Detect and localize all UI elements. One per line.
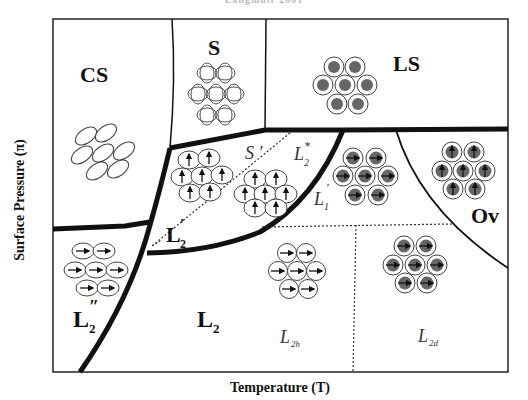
l2d-molecule-cluster xyxy=(383,236,447,293)
svg-text:′: ′ xyxy=(180,216,185,233)
ov-molecule-cluster xyxy=(432,142,495,199)
svg-text:L: L xyxy=(279,327,290,347)
phase-label-l2-double-prime: L 2 ″ xyxy=(73,297,99,336)
s-ls-boundary xyxy=(265,19,266,131)
svg-text:2: 2 xyxy=(213,321,220,336)
svg-text:2h: 2h xyxy=(291,339,301,349)
cs-molecule-cluster xyxy=(68,120,138,183)
l2-prime-left-boundary xyxy=(80,148,170,372)
svg-text:2: 2 xyxy=(89,321,96,336)
svg-text:2: 2 xyxy=(304,157,309,168)
phase-label-l2-star: L 2 * xyxy=(293,139,310,168)
svg-text:L: L xyxy=(417,326,428,346)
l2h-molecule-cluster xyxy=(269,244,326,299)
l2-double-prime-molecule-cluster xyxy=(64,243,128,296)
svg-text:L: L xyxy=(293,144,304,164)
svg-text:′: ′ xyxy=(326,181,329,195)
phase-label-cs: CS xyxy=(80,62,108,87)
svg-text:L: L xyxy=(166,222,181,247)
phase-label-s-prime: S ′ xyxy=(245,143,264,163)
cs-s-boundary xyxy=(170,19,174,148)
svg-text:1: 1 xyxy=(324,201,329,212)
svg-text:L: L xyxy=(197,306,213,332)
x-axis-label: Temperature (T) xyxy=(230,380,330,396)
cs-l2pp-boundary xyxy=(53,222,150,229)
svg-text:*: * xyxy=(304,139,310,153)
phase-label-l2-prime: L 2 ′ xyxy=(166,216,186,251)
l1-prime-molecule-cluster xyxy=(333,148,398,205)
phase-label-ov: Ov xyxy=(471,203,499,228)
svg-text:L: L xyxy=(73,306,89,332)
phase-label-s: S xyxy=(208,35,220,60)
ls-molecule-cluster xyxy=(313,57,377,114)
l2-prime-pointer xyxy=(152,240,162,246)
l1-l2-dotted-boundary xyxy=(262,224,452,227)
y-axis-label: Surface Pressure (π) xyxy=(12,139,28,261)
svg-text:2: 2 xyxy=(180,237,186,251)
svg-text:″: ″ xyxy=(89,297,99,317)
svg-text:L: L xyxy=(313,189,324,209)
phase-label-ls: LS xyxy=(393,51,420,76)
phase-diagram: CS S LS S ′ L 2 * L 1 ′ xyxy=(0,0,528,400)
phase-label-l2: L 2 xyxy=(197,306,220,336)
svg-text:2d: 2d xyxy=(429,338,439,348)
phase-label-l2d: L 2d xyxy=(417,326,439,348)
l2-prime-molecule-cluster xyxy=(171,149,233,202)
l2h-l2d-dotted-boundary xyxy=(353,225,356,372)
phase-label-l1-prime: L 1 ′ xyxy=(313,181,329,212)
phase-label-l2h: L 2h xyxy=(279,327,301,349)
s-molecule-cluster xyxy=(188,63,244,125)
